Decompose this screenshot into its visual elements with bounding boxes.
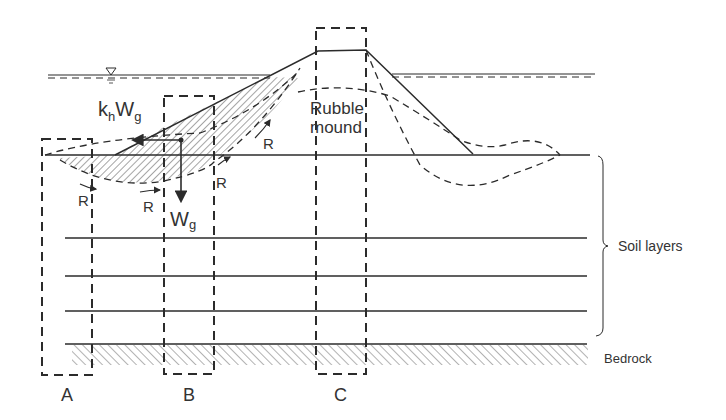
box-b-label: B [183,385,195,405]
water-level [48,74,595,78]
resistance-label: R [263,135,274,152]
resistance-label: R [143,198,154,215]
box-c-label: C [334,385,347,405]
soil-layers-label: Soil layers [618,238,683,254]
slice-box-a [42,139,92,375]
soil-layer-lines [65,238,587,344]
resistance-label: R [78,192,89,209]
weight-label: Wg [170,208,196,232]
slice-boxes [42,28,366,375]
box-a-label: A [61,385,73,405]
rubble-mound-label: Rubble [310,99,364,118]
rubble-mound-label: mound [310,118,362,137]
bedrock-label: Bedrock [604,351,652,366]
rubble-mound-stability-diagram: khWg Wg R R R R Rubble mound Soil layers… [0,0,726,420]
soil-layers-brace [596,156,608,336]
horizontal-force-label: khWg [98,98,141,124]
bedrock-hatch [72,345,222,365]
resistance-label: R [216,174,227,191]
slice-box-c [316,28,366,374]
bedrock-hatch [222,345,588,365]
